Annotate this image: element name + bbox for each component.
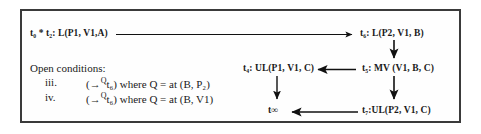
node-t7: t₇:UL(P2, V1, C) (362, 105, 431, 115)
right-arrow-icon: → (90, 93, 101, 105)
node-t0-t2: t₀ * t₂: L(P1, V1,A) (30, 28, 108, 38)
open-condition-body-iii: (→Qt₆) where Q = at (B, P₂) (86, 76, 210, 90)
node-t6: t₆: L(P2, V1, B) (360, 28, 424, 38)
open-condition-text-iv: ) where Q = at (B, V1) (113, 93, 213, 105)
figure-canvas: t₀ * t₂: L(P1, V1,A) t₆: L(P2, V1, B) t₄… (0, 0, 481, 134)
node-t-infinity: t∞ (268, 105, 278, 115)
node-t4: t₄: UL(P1, V1, C) (243, 63, 314, 73)
open-condition-body-iv: (→Qt₆) where Q = at (B, V1) (86, 91, 213, 105)
open-condition-text-iii: ) where Q = at (B, P₂) (113, 78, 210, 90)
open-condition-numeral-iv: iv. (45, 91, 56, 103)
open-condition-numeral-iii: iii. (45, 76, 57, 88)
node-t5: t₅: MV (V1, B, C) (362, 63, 434, 73)
right-arrow-icon: → (90, 78, 101, 90)
open-conditions-heading: Open conditions: (30, 62, 105, 74)
